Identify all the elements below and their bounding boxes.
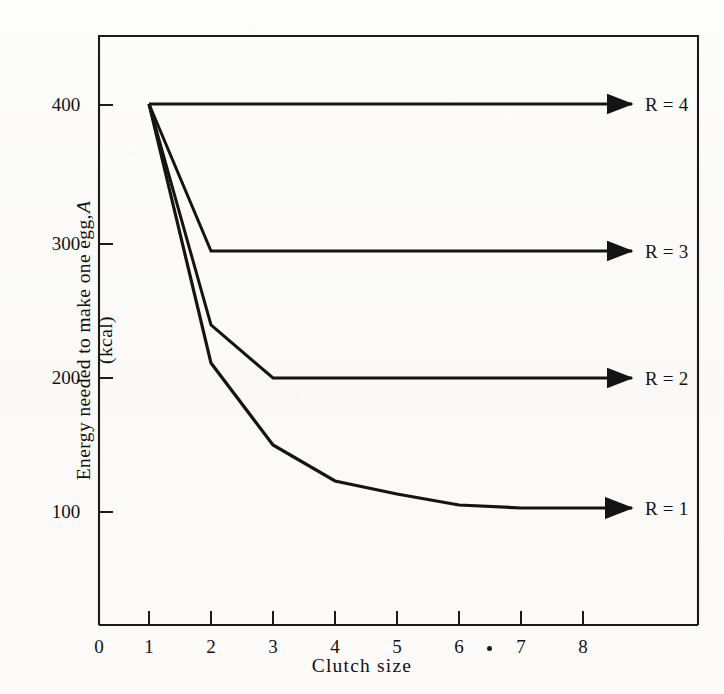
x-axis-title: Clutch size [0,655,724,677]
y-tick-label-400: 400 [40,94,92,116]
y-axis-title-after: (kcal) [95,316,116,364]
plot-frame-box [99,36,698,625]
scan-artifact-dot [487,646,492,651]
x-tick-marks [149,611,583,625]
series-line-r3 [149,104,632,251]
series-label-r4: R = 4 [645,94,688,116]
figure-canvas: 400 300 200 100 0 1 2 3 4 5 6 7 8 Energy… [0,0,724,694]
y-axis-title-before: Energy needed to make one egg, [73,214,94,480]
series-label-r3: R = 3 [645,241,688,263]
series-label-r2: R = 2 [645,368,688,390]
series-line-r1 [149,104,632,508]
y-axis-title-symbol: A [73,200,94,214]
series-line-r2 [149,104,632,378]
y-axis-title: Energy needed to make one egg,A (kcal) [73,175,117,505]
series-label-r1: R = 1 [645,498,688,520]
